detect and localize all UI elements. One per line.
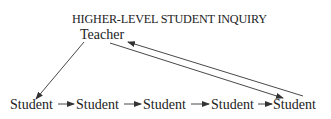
arrow-student-5-to-teacher [128, 42, 303, 96]
arrow-teacher-to-student-5 [110, 43, 283, 98]
arrow-teacher-to-student-1 [36, 42, 84, 99]
arrows-layer [0, 0, 331, 119]
